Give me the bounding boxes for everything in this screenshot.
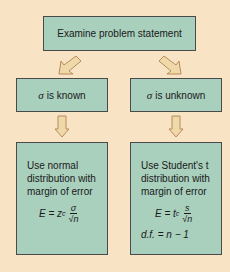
t-description: Use Student's t distribution with margin… <box>141 159 221 198</box>
desc-line: margin of error <box>141 185 221 198</box>
formula-lhs: E = z <box>39 208 62 219</box>
numerator: σ <box>70 203 77 214</box>
sigma-symbol: σ <box>147 89 152 101</box>
formula-sub: c <box>176 210 180 217</box>
sigma-known-box: σ is known <box>16 78 108 112</box>
numerator: s <box>184 203 191 214</box>
arrow-down-left-icon <box>56 54 82 76</box>
desc-line: margin of error <box>27 185 107 198</box>
sigma-unknown-box: σ is unknown <box>130 78 222 112</box>
normal-formula: E = zc σ √n <box>39 203 79 224</box>
desc-line: distribution with <box>27 172 107 185</box>
denominator: √n <box>69 214 79 224</box>
formula-sub: c <box>62 210 66 217</box>
sigma-symbol: σ <box>38 89 43 101</box>
degrees-of-freedom: d.f. = n − 1 <box>141 229 189 240</box>
sigma-unknown-label: is unknown <box>155 90 205 101</box>
t-formula: E = tc s √n <box>155 203 192 224</box>
desc-line: Use normal <box>27 159 107 172</box>
t-distribution-box: Use Student's t distribution with margin… <box>130 142 222 255</box>
arrow-down-icon <box>54 115 70 139</box>
denominator: √n <box>182 214 192 224</box>
arrow-down-right-icon <box>158 54 184 76</box>
desc-line: distribution with <box>141 172 221 185</box>
sigma-known-label: is known <box>47 90 86 101</box>
fraction: σ √n <box>69 203 79 224</box>
formula-lhs: E = t <box>155 208 176 219</box>
fraction: s √n <box>182 203 192 224</box>
examine-problem-label: Examine problem statement <box>57 28 182 39</box>
arrow-down-icon <box>168 115 184 139</box>
examine-problem-box: Examine problem statement <box>43 16 196 51</box>
normal-description: Use normal distribution with margin of e… <box>27 159 107 198</box>
normal-distribution-box: Use normal distribution with margin of e… <box>16 142 108 255</box>
desc-line: Use Student's t <box>141 159 221 172</box>
